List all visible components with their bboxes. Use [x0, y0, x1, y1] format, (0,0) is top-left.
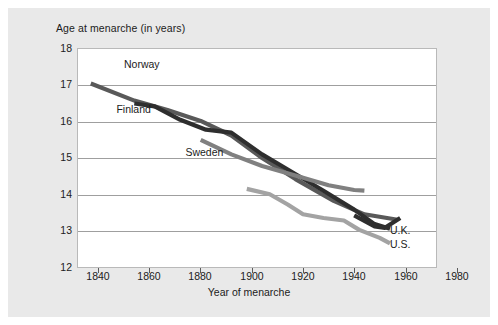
y-tick-label: 16 — [42, 115, 72, 127]
x-tick-label: 1880 — [178, 270, 222, 282]
x-axis-title: Year of menarche — [8, 286, 490, 298]
x-tick-label: 1860 — [127, 270, 171, 282]
x-tick-label: 1960 — [384, 270, 428, 282]
x-tick-label: 1940 — [332, 270, 376, 282]
series-lines — [78, 49, 436, 267]
y-tick-label: 17 — [42, 78, 72, 90]
series-label-sweden: Sweden — [185, 146, 223, 158]
series-label-us: U.S. — [390, 238, 410, 250]
y-tick-label: 15 — [42, 151, 72, 163]
y-tick-label: 18 — [42, 42, 72, 54]
plot-area: NorwayFinlandSwedenU.K.U.S. — [77, 48, 437, 268]
y-tick-label: 12 — [42, 261, 72, 273]
x-tick-label: 1920 — [281, 270, 325, 282]
series-label-uk: U.K. — [390, 224, 410, 236]
chart-title: Age at menarche (in years) — [56, 22, 185, 34]
series-label-norway: Norway — [124, 58, 160, 70]
y-tick-label: 13 — [42, 224, 72, 236]
series-label-finland: Finland — [116, 103, 150, 115]
chart-figure: Age at menarche (in years) 18 17 16 15 1… — [8, 8, 490, 317]
x-tick-label: 1840 — [76, 270, 120, 282]
y-tick-label: 14 — [42, 188, 72, 200]
x-tick-label: 1980 — [435, 270, 479, 282]
x-tick-label: 1900 — [230, 270, 274, 282]
chart-card: Age at menarche (in years) 18 17 16 15 1… — [8, 8, 490, 317]
